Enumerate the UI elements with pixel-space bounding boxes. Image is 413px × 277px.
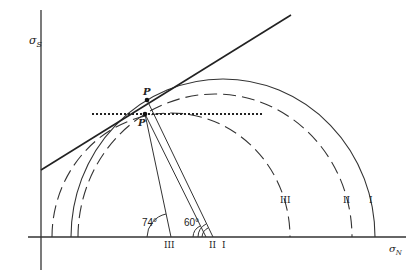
- circle-III-label: III: [280, 195, 291, 205]
- angle-60-label: 60°: [184, 217, 199, 228]
- circle-I-label: I: [369, 195, 373, 205]
- x-axis-label: σN: [389, 243, 403, 257]
- axis-marker-I: I: [222, 240, 226, 250]
- point-P-lower-label: P: [137, 117, 146, 128]
- circle-II-label: II: [343, 195, 351, 205]
- axis-marker-III: III: [164, 240, 175, 250]
- angle-74-label: 74°: [142, 217, 157, 228]
- y-axis-label: σS: [29, 34, 43, 49]
- point-P-upper-label: P: [142, 86, 151, 97]
- labels-layer: σS σN P P 74° 60° III II I III II I: [0, 0, 413, 277]
- axis-marker-II: II: [209, 240, 217, 250]
